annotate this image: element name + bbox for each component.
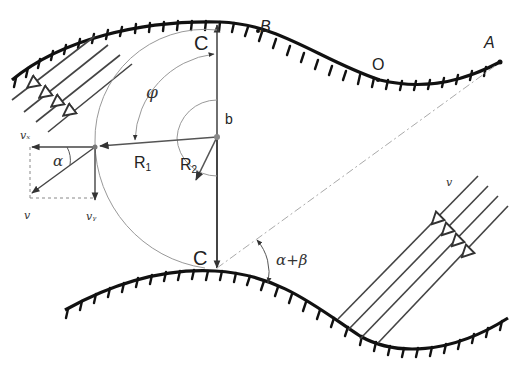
label-vx: vₓ [20,129,30,142]
radius-R2 [196,137,217,180]
label-vy: vᵧ [86,210,97,223]
streamlines-lower-right [338,176,508,343]
angle-alpha-beta-arc [257,240,269,283]
label-R1: R1 [134,154,152,173]
label-b: b [225,111,233,127]
streamlines-upper-left [12,36,132,132]
label-v-right: v [446,176,453,189]
velocity-decomposition [30,145,98,201]
label-alpha: α [53,152,63,170]
label-C-bottom: C [193,247,207,269]
label-C-top: C [194,32,208,54]
radius-R1 [100,137,217,146]
label-R2: R2 [180,156,198,175]
label-A: A [483,34,495,51]
upper-wall [12,21,503,90]
lower-wall [65,270,508,357]
center-point [214,134,220,140]
point-A-dot [498,60,503,65]
arc-R1 [95,29,217,268]
flow-diagram: C C B O A b φ R1 R2 α α+β vₓ v vᵧ v [0,0,523,371]
label-phi: φ [146,82,158,102]
point-O-dot [376,78,380,82]
label-v: v [24,209,31,222]
label-alpha-beta: α+β [276,251,308,269]
label-B: B [260,18,271,35]
line-C-A [217,66,495,268]
label-O: O [372,56,384,73]
